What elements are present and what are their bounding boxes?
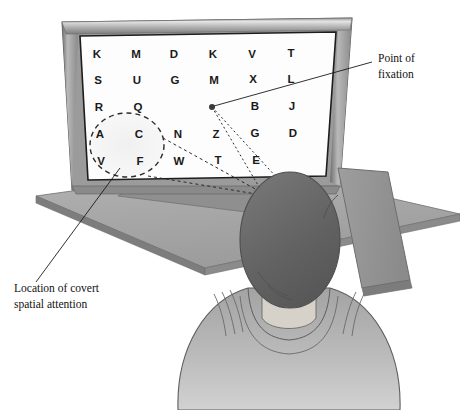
grid-cell: T	[287, 47, 294, 59]
grid-cell: T	[214, 154, 221, 166]
grid-cell: G	[251, 127, 260, 139]
grid-cell: M	[131, 48, 141, 60]
grid-cell: A	[96, 128, 104, 140]
grid-cell: J	[289, 100, 295, 112]
grid-cell: L	[287, 73, 294, 85]
fixation-callout: Point of fixation	[378, 52, 415, 80]
figure-illustration: K M D K V T S U G M X L R Q B J A C N Z …	[0, 0, 460, 410]
grid-cell: D	[289, 127, 297, 139]
grid-cell: Q	[134, 101, 143, 113]
covert-label-line2: spatial attention	[14, 298, 87, 311]
grid-cell: S	[94, 74, 102, 86]
grid-cell: R	[95, 101, 104, 113]
fixation-label-line1: Point of	[378, 52, 415, 64]
grid-cell: W	[174, 155, 185, 167]
fixation-dot	[209, 104, 215, 110]
covert-attention-callout: Location of covert spatial attention	[14, 282, 100, 311]
grid-cell: C	[135, 128, 143, 140]
covert-attention-spotlight	[90, 113, 164, 177]
grid-cell: B	[251, 100, 259, 112]
grid-cell: Z	[212, 128, 219, 140]
grid-cell: G	[171, 74, 180, 86]
scene-svg: K M D K V T S U G M X L R Q B J A C N Z …	[0, 0, 460, 410]
grid-cell: F	[136, 155, 143, 167]
grid-cell: K	[93, 48, 102, 60]
head	[240, 172, 340, 308]
grid-cell: M	[209, 74, 219, 86]
grid-cell: N	[174, 128, 182, 140]
grid-cell: V	[97, 155, 105, 167]
fixation-label-line2: fixation	[378, 68, 414, 80]
grid-cell: K	[209, 48, 218, 60]
grid-cell: V	[248, 48, 256, 60]
grid-cell: D	[170, 48, 178, 60]
grid-cell: X	[249, 73, 257, 85]
grid-cell: U	[133, 74, 141, 86]
covert-label-line1: Location of covert	[14, 282, 100, 294]
